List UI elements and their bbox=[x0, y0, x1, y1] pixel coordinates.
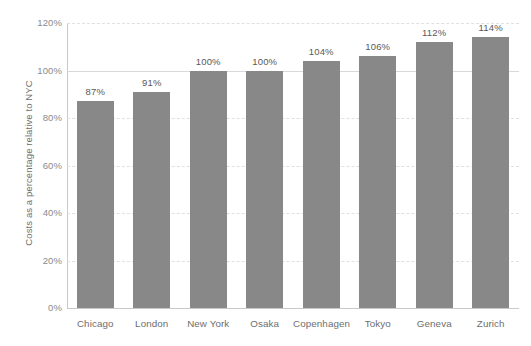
x-axis-category-label: Geneva bbox=[406, 317, 463, 331]
bar-value-label: 114% bbox=[472, 22, 509, 33]
x-axis-category-label: London bbox=[124, 317, 181, 331]
bar[interactable]: 106% bbox=[359, 56, 396, 308]
bar-value-label: 112% bbox=[416, 27, 453, 38]
bar-value-label: 91% bbox=[133, 77, 170, 88]
bar-value-label: 87% bbox=[77, 86, 114, 97]
y-axis-tick-label: 40% bbox=[22, 208, 62, 218]
bar[interactable]: 104% bbox=[303, 61, 340, 308]
y-axis-tick-label: 60% bbox=[22, 161, 62, 171]
bar[interactable]: 100% bbox=[190, 71, 227, 309]
x-axis-line bbox=[67, 308, 519, 309]
bar-value-label: 100% bbox=[246, 56, 283, 67]
bar-series: 87%91%100%100%104%106%112%114% bbox=[67, 23, 519, 308]
bar-value-label: 106% bbox=[359, 41, 396, 52]
y-axis-tick-label: 20% bbox=[22, 256, 62, 266]
y-axis-tick-label: 120% bbox=[22, 18, 62, 28]
x-axis-category-label: Chicago bbox=[67, 317, 124, 331]
y-axis-tick-label: 80% bbox=[22, 113, 62, 123]
bar[interactable]: 87% bbox=[77, 101, 114, 308]
plot-area: 87%91%100%100%104%106%112%114% bbox=[67, 23, 519, 308]
bar-value-label: 100% bbox=[190, 56, 227, 67]
y-axis-tick-labels: 0%20%40%60%80%100%120% bbox=[22, 23, 62, 308]
x-axis-category-label: Tokyo bbox=[350, 317, 407, 331]
x-axis-category-label: Zurich bbox=[463, 317, 520, 331]
bar-chart: Costs as a percentage relative to NYC 0%… bbox=[0, 0, 531, 346]
x-axis-category-label: Copenhagen bbox=[293, 317, 350, 331]
bar[interactable]: 91% bbox=[133, 92, 170, 308]
y-axis-tick-label: 100% bbox=[22, 66, 62, 76]
bar[interactable]: 112% bbox=[416, 42, 453, 308]
x-axis-category-label: New York bbox=[180, 317, 237, 331]
y-axis-tick-label: 0% bbox=[22, 303, 62, 313]
bar-value-label: 104% bbox=[303, 46, 340, 57]
bar[interactable]: 100% bbox=[246, 71, 283, 309]
x-axis-category-labels: ChicagoLondonNew YorkOsakaCopenhagenToky… bbox=[67, 313, 519, 333]
bar[interactable]: 114% bbox=[472, 37, 509, 308]
x-axis-category-label: Osaka bbox=[237, 317, 294, 331]
